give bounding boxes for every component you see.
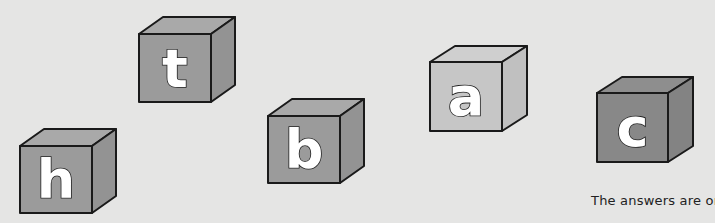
letter-cube-c: c	[597, 77, 693, 162]
letter-cube-t: t	[139, 17, 235, 102]
cube-letter: t	[162, 37, 188, 100]
letter-cube-h: h	[20, 129, 116, 213]
cube-letter: c	[616, 96, 648, 159]
cube-letter: h	[37, 148, 75, 211]
answers-note: The answers are on page 61	[591, 193, 715, 208]
page: thbac The answers are on page 61	[0, 0, 715, 223]
cube-side-face	[502, 46, 527, 131]
letter-cubes: thbac	[0, 0, 715, 223]
letter-cube-b: b	[268, 99, 364, 183]
cube-side-face	[668, 77, 693, 162]
cube-letter: b	[285, 118, 324, 181]
letter-cube-a: a	[430, 46, 527, 131]
cube-letter: a	[448, 65, 484, 128]
